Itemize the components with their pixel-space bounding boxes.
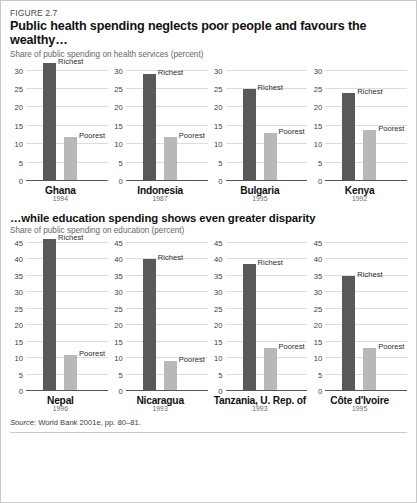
bar-label-poorest: Poorest	[179, 356, 205, 365]
bar-poorest: Poorest	[164, 361, 177, 391]
bar-richest: Richest	[342, 276, 355, 392]
bar-richest: Richest	[43, 239, 56, 391]
x-axis-line	[126, 390, 208, 391]
bar-label-richest: Richest	[258, 258, 283, 267]
y-axis-tick-label: 10	[114, 140, 125, 149]
y-axis-tick-label: 25	[15, 304, 26, 313]
y-axis-tick-label: 15	[15, 121, 26, 130]
year-label: 1994	[11, 195, 110, 202]
x-axis-line	[226, 180, 308, 181]
y-axis-tick-label: 0	[318, 177, 325, 186]
y-axis-tick-label: 40	[214, 255, 225, 264]
bar-label-poorest: Poorest	[79, 349, 105, 358]
y-axis-tick-label: 10	[314, 140, 325, 149]
source-note: Source: World Bank 2001e, pp. 80–81.	[10, 418, 407, 427]
y-axis-tick-label: 10	[314, 354, 325, 363]
chart-panel: 051015202530354045RichestPoorestTanzania…	[210, 239, 310, 412]
source-prefix: Source:	[10, 418, 36, 427]
x-axis-line	[226, 390, 308, 391]
year-label: 1993	[211, 405, 310, 412]
y-axis-tick-label: 5	[218, 158, 225, 167]
bar-richest: Richest	[43, 63, 56, 181]
bar-label-poorest: Poorest	[279, 342, 305, 351]
y-axis-tick-label: 5	[318, 158, 325, 167]
y-axis-tick-label: 15	[214, 337, 225, 346]
y-axis-tick-label: 40	[314, 255, 325, 264]
chart-panel: 051015202530RichestPoorestGhana1994	[10, 63, 110, 202]
y-axis-tick-label: 20	[15, 321, 26, 330]
year-label: 1995	[211, 195, 310, 202]
bar-richest: Richest	[143, 259, 156, 391]
y-axis-tick-label: 15	[114, 337, 125, 346]
y-axis-tick-label: 30	[314, 288, 325, 297]
y-axis-tick-label: 15	[15, 337, 26, 346]
chart-panel: 051015202530RichestPoorestIndonesia1987	[110, 63, 210, 202]
y-axis-tick-label: 20	[214, 103, 225, 112]
y-axis-tick-label: 35	[214, 271, 225, 280]
year-label: 1992	[310, 195, 409, 202]
figure-title: Public health spending neglects poor peo…	[10, 19, 407, 47]
bar-label-poorest: Poorest	[279, 127, 305, 136]
y-axis-tick-label: 20	[114, 103, 125, 112]
y-axis-tick-label: 30	[15, 288, 26, 297]
bar-label-richest: Richest	[58, 233, 83, 242]
y-axis-tick-label: 0	[19, 177, 26, 186]
figure-container: FIGURE 2.7 Public health spending neglec…	[0, 0, 417, 503]
y-axis-tick-label: 10	[114, 354, 125, 363]
section2-title: …while education spending shows even gre…	[10, 212, 407, 224]
y-axis-tick-label: 25	[15, 85, 26, 94]
bars-group: RichestPoorest	[33, 239, 115, 391]
year-label: 1996	[11, 405, 110, 412]
y-axis-tick-label: 15	[214, 121, 225, 130]
bar-label-poorest: Poorest	[378, 342, 404, 351]
y-axis-tick-label: 10	[214, 354, 225, 363]
y-axis-tick-label: 10	[214, 140, 225, 149]
y-axis-tick-label: 25	[314, 304, 325, 313]
bar-poorest: Poorest	[264, 348, 277, 391]
y-axis-tick-label: 45	[114, 238, 125, 247]
y-axis-tick-label: 25	[314, 85, 325, 94]
y-axis-tick-label: 20	[15, 103, 26, 112]
plot-area: 051015202530RichestPoorest	[26, 63, 108, 181]
bar-label-richest: Richest	[158, 68, 183, 77]
year-label: 1993	[111, 405, 210, 412]
health-chart-row: 051015202530RichestPoorestGhana199405101…	[10, 63, 409, 202]
year-label: 1987	[111, 195, 210, 202]
y-axis-tick-label: 15	[314, 337, 325, 346]
y-axis-tick-label: 5	[318, 370, 325, 379]
y-axis-tick-label: 5	[119, 370, 126, 379]
bar-label-poorest: Poorest	[79, 131, 105, 140]
y-axis-tick-label: 45	[15, 238, 26, 247]
y-axis-tick-label: 30	[314, 66, 325, 75]
bar-label-richest: Richest	[258, 83, 283, 92]
bar-poorest: Poorest	[164, 137, 177, 181]
bar-label-richest: Richest	[357, 270, 382, 279]
bar-richest: Richest	[243, 264, 256, 391]
y-axis-tick-label: 0	[19, 387, 26, 396]
plot-area: 051015202530354045RichestPoorest	[325, 239, 407, 391]
y-axis-tick-label: 15	[114, 121, 125, 130]
chart-panel: 051015202530RichestPoorestKenya1992	[309, 63, 409, 202]
y-axis-tick-label: 5	[119, 158, 126, 167]
y-axis-tick-label: 15	[314, 121, 325, 130]
chart-panel: 051015202530354045RichestPoorestNepal199…	[10, 239, 110, 412]
y-axis-tick-label: 0	[119, 177, 126, 186]
y-axis-tick-label: 35	[15, 271, 26, 280]
plot-area: 051015202530354045RichestPoorest	[126, 239, 208, 391]
plot-area: 051015202530RichestPoorest	[325, 63, 407, 181]
bar-label-poorest: Poorest	[378, 124, 404, 133]
y-axis-tick-label: 30	[114, 66, 125, 75]
plot-area: 051015202530RichestPoorest	[126, 63, 208, 181]
y-axis-tick-label: 0	[318, 387, 325, 396]
y-axis-tick-label: 20	[314, 103, 325, 112]
year-label: 1995	[310, 405, 409, 412]
x-axis-line	[325, 390, 407, 391]
bars-group: RichestPoorest	[133, 239, 215, 391]
y-axis-tick-label: 25	[214, 85, 225, 94]
bars-group: RichestPoorest	[233, 239, 315, 391]
bar-label-richest: Richest	[58, 57, 83, 66]
plot-area: 051015202530RichestPoorest	[226, 63, 308, 181]
footer-divider	[10, 432, 407, 433]
y-axis-tick-label: 0	[218, 387, 225, 396]
bar-label-richest: Richest	[357, 87, 382, 96]
